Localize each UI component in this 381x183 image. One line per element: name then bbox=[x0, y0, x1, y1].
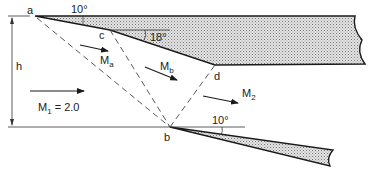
lower-wedge bbox=[170, 127, 333, 166]
shock-diagram: a c d b h 10° 18° 10° M1 = 2.0 Ma Mb M2 bbox=[0, 0, 381, 183]
mach-b-label: Mb bbox=[160, 60, 174, 75]
point-b-label: b bbox=[164, 131, 170, 143]
angle-corner-c: 18° bbox=[150, 31, 167, 43]
height-arrow-top bbox=[10, 17, 14, 24]
mach-freestream-label: M1 = 2.0 bbox=[38, 101, 79, 116]
point-d-label: d bbox=[214, 70, 220, 82]
mach-a-label: Ma bbox=[100, 54, 114, 69]
point-c-label: c bbox=[99, 29, 105, 41]
height-label: h bbox=[16, 60, 22, 72]
wave-b-d bbox=[170, 65, 215, 127]
arrow-region-a bbox=[80, 45, 108, 51]
angle-upper-wall: 10° bbox=[71, 3, 88, 15]
arrow-downstream bbox=[203, 96, 238, 103]
height-arrow-bottom bbox=[10, 119, 14, 126]
point-a-label: a bbox=[27, 4, 34, 16]
upper-body bbox=[35, 16, 365, 65]
mach-2-label: M2 bbox=[242, 87, 256, 102]
angle-lower-wedge: 10° bbox=[212, 114, 229, 126]
